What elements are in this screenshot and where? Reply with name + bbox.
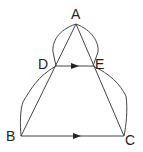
parallel-arrow-bc: [73, 133, 81, 139]
triangle-figure: A D E B C: [0, 0, 143, 152]
segment-ab: [21, 24, 76, 136]
parallel-arrow-de: [71, 63, 79, 69]
label-b: B: [6, 128, 15, 144]
label-d: D: [38, 56, 48, 72]
label-e: E: [95, 56, 104, 72]
label-a: A: [71, 6, 81, 22]
geometry-diagram: A D E B C: [0, 0, 143, 152]
label-c: C: [125, 132, 135, 148]
segment-ac: [76, 24, 124, 136]
